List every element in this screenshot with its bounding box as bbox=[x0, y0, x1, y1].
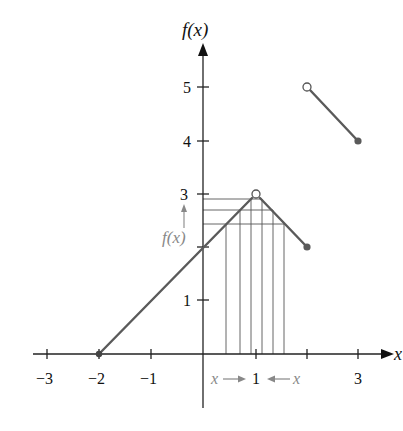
y-axis-arrow-icon bbox=[198, 43, 208, 56]
x-axis-title: x bbox=[393, 344, 402, 364]
filled-point-minus2-0 bbox=[96, 351, 102, 357]
filled-point-3-4 bbox=[354, 137, 361, 144]
y-axis bbox=[197, 43, 209, 408]
chart: f(x) x −3 −2 −1 1 3 5 4 3 1 x x f(x) bbox=[0, 0, 403, 431]
x-axis-arrow-icon bbox=[381, 349, 394, 359]
y-tick-label-1: 1 bbox=[183, 292, 191, 309]
x-tick-label-3: 3 bbox=[354, 370, 362, 387]
segment-falling bbox=[260, 198, 307, 247]
x-tick-label-1: 1 bbox=[252, 370, 260, 387]
annotation-right-x: x bbox=[292, 370, 300, 387]
left-arrow-icon bbox=[267, 376, 290, 383]
x-tick-label-minus2: −2 bbox=[88, 370, 105, 387]
open-point-2-5 bbox=[303, 83, 311, 91]
y-tick-label-3: 3 bbox=[180, 186, 188, 203]
y-axis-title: f(x) bbox=[182, 19, 208, 41]
y-tick-label-4: 4 bbox=[183, 133, 191, 150]
x-axis bbox=[33, 349, 394, 359]
segment-rising bbox=[99, 198, 252, 354]
function-curve bbox=[99, 90, 358, 354]
open-point-1-3 bbox=[252, 190, 260, 198]
right-arrow-icon bbox=[223, 376, 246, 383]
segment-upper bbox=[310, 90, 358, 141]
annotation-fx: f(x) bbox=[162, 228, 186, 247]
filled-point-2-2 bbox=[303, 243, 310, 250]
x-tick-label-minus3: −3 bbox=[36, 370, 53, 387]
vertical-guide-lines bbox=[226, 199, 284, 354]
annotation-left-x: x bbox=[210, 370, 218, 387]
x-tick-label-minus1: −1 bbox=[140, 370, 157, 387]
y-tick-label-5: 5 bbox=[183, 79, 191, 96]
fx-up-arrow-icon bbox=[181, 204, 187, 228]
